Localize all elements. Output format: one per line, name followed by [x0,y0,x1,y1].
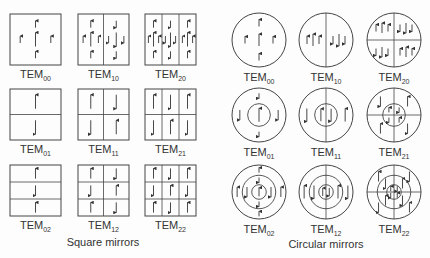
circular-mirror-patterns [232,13,421,219]
circular-mode-01 [232,88,286,142]
label-square-tem21: TEM21 [141,143,201,157]
label-circular-tem01: TEM01 [229,146,289,160]
label-circular-tem22: TEM22 [364,223,424,237]
circular-mode-12 [299,165,353,219]
square-mode-12 [78,165,129,216]
circular-mirrors-caption: Circular mirrors [256,238,396,250]
square-mirror-patterns [10,14,196,216]
label-square-tem02: TEM02 [6,219,66,233]
square-mode-21 [145,89,196,140]
circular-mode-00 [232,13,286,67]
square-mode-02 [10,165,61,216]
label-square-tem11: TEM11 [74,143,134,157]
label-circular-tem10: TEM10 [296,71,356,85]
square-mode-10 [78,14,129,65]
circular-mode-21 [367,88,421,142]
square-mode-00 [10,14,61,65]
label-square-tem01: TEM01 [6,143,66,157]
label-square-tem12: TEM12 [74,219,134,233]
label-square-tem20: TEM20 [141,68,201,82]
label-circular-tem00: TEM00 [229,71,289,85]
square-mode-01 [10,89,61,140]
label-circular-tem02: TEM02 [229,223,289,237]
square-mode-20 [145,14,196,65]
label-square-tem00: TEM00 [6,68,66,82]
label-circular-tem21: TEM21 [364,146,424,160]
label-circular-tem11: TEM11 [296,146,356,160]
label-circular-tem12: TEM12 [296,223,356,237]
square-mirrors-caption: Square mirrors [33,236,173,248]
circular-mode-22 [367,165,421,219]
circular-mode-10 [299,13,353,67]
label-square-tem22: TEM22 [141,219,201,233]
circular-mode-20 [367,13,421,67]
figure-caption-cut-off [20,254,420,258]
circular-mode-11 [299,88,353,142]
label-circular-tem20: TEM20 [364,71,424,85]
square-mode-22 [145,165,196,216]
square-mode-11 [78,89,129,140]
label-square-tem10: TEM10 [74,68,134,82]
circular-mode-02 [232,165,286,219]
